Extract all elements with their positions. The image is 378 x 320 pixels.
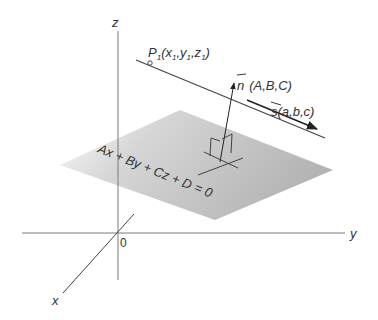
z-axis-label: z — [111, 15, 119, 30]
svg-text:P1(x1,y1,z1): P1(x1,y1,z1) — [148, 45, 210, 62]
origin-label: 0 — [120, 236, 127, 250]
x-axis-label: x — [51, 293, 59, 308]
diagram-canvas: z y x 0 P1(x1,y1,z1) s(a,b,c) — [0, 0, 378, 320]
vector-arrow-icon — [237, 74, 246, 75]
svg-text:s(a,b,c): s(a,b,c) — [271, 104, 314, 119]
x-axis — [63, 214, 134, 293]
direction-vector-s: s(a,b,c) — [247, 100, 317, 129]
point-p1 — [148, 61, 152, 65]
point-p1-label: P1(x1,y1,z1) — [148, 45, 210, 62]
svg-text:n(A,B,C): n(A,B,C) — [237, 78, 292, 93]
y-axis-label: y — [349, 226, 358, 241]
plane — [60, 110, 333, 220]
